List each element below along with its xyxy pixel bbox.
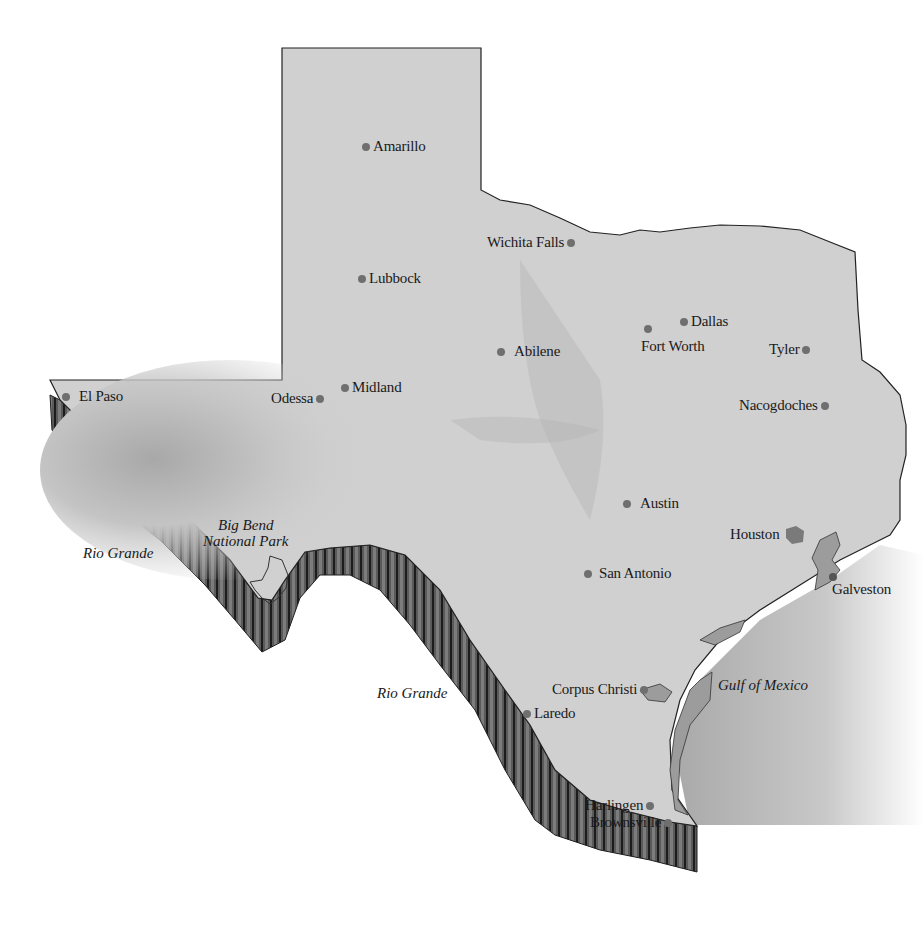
texas-relief-map xyxy=(0,0,924,935)
city-dot-icon xyxy=(362,143,370,151)
city-nacogdoches: Nacogdoches xyxy=(739,398,829,413)
city-dot-icon xyxy=(316,395,324,403)
galveston-dot-icon xyxy=(829,573,837,581)
city-dot-icon xyxy=(821,402,829,410)
city-dot-icon xyxy=(623,500,631,508)
gulf-of-mexico-label: Gulf of Mexico xyxy=(718,678,808,694)
city-harlingen: Harlingen xyxy=(585,798,654,813)
city-dot-icon xyxy=(497,348,505,356)
city-lubbock: Lubbock xyxy=(358,271,421,286)
texas-map: Amarillo Wichita Falls Lubbock Dallas Fo… xyxy=(0,0,924,935)
city-dot-icon xyxy=(62,393,70,401)
city-dot-icon xyxy=(584,570,592,578)
city-austin: Austin xyxy=(623,496,679,511)
city-midland: Midland xyxy=(341,380,401,395)
city-el-paso: El Paso xyxy=(62,389,123,404)
rio-grande-label-west: Rio Grande xyxy=(83,546,153,562)
city-laredo: Laredo xyxy=(523,706,575,721)
fort-worth-dot-icon xyxy=(644,325,652,333)
city-dot-icon xyxy=(664,819,672,827)
city-dallas: Dallas xyxy=(680,314,728,329)
city-dot-icon xyxy=(523,710,531,718)
city-houston: Houston xyxy=(730,527,779,542)
city-amarillo: Amarillo xyxy=(362,139,426,154)
city-fort-worth: Fort Worth xyxy=(641,339,705,354)
city-dot-icon xyxy=(802,346,810,354)
city-abilene: Abilene xyxy=(497,344,560,359)
city-san-antonio: San Antonio xyxy=(584,566,671,581)
big-bend-label-line1: Big Bend xyxy=(203,518,288,534)
city-dot-icon xyxy=(358,275,366,283)
city-dot-icon xyxy=(567,239,575,247)
city-brownsville: Brownsville xyxy=(590,815,672,830)
city-galveston: Galveston xyxy=(832,582,891,597)
city-dot-icon xyxy=(341,384,349,392)
city-odessa: Odessa xyxy=(271,391,324,406)
city-tyler: Tyler xyxy=(769,342,810,357)
city-dot-icon xyxy=(680,318,688,326)
big-bend-label: Big Bend National Park xyxy=(203,518,288,550)
city-dot-icon xyxy=(646,802,654,810)
city-wichita-falls: Wichita Falls xyxy=(487,235,575,250)
rio-grande-label-south: Rio Grande xyxy=(377,686,447,702)
city-dot-icon xyxy=(640,686,648,694)
big-bend-label-line2: National Park xyxy=(203,534,288,550)
city-corpus-christi: Corpus Christi xyxy=(552,682,648,697)
